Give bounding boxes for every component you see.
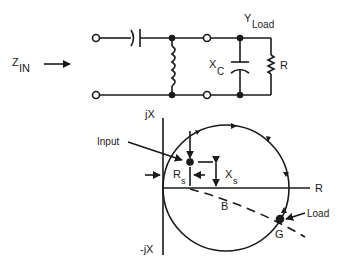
xs-label: X [225, 168, 233, 180]
load-terminal-top [204, 35, 211, 42]
yload-label: Y [244, 12, 252, 24]
rs-label: R [173, 168, 181, 180]
load-point [277, 216, 284, 223]
b-label: B [221, 200, 228, 212]
r-axis-label: R [315, 182, 323, 194]
jx-label: jX [144, 108, 155, 120]
zin-label: Z [12, 56, 19, 68]
matching-network-diagram: Z IN Y Load X C R jX -jX R Input R s X s… [0, 0, 340, 266]
neg-jx-label: -jX [140, 243, 154, 255]
load-terminal-bottom [204, 92, 211, 99]
xc-label: X [209, 58, 217, 70]
series-capacitor-icon [131, 30, 134, 46]
input-terminal-top [93, 35, 100, 42]
input-point [187, 159, 193, 165]
r-label: R [280, 59, 288, 71]
shunt-inductor-icon [172, 46, 175, 86]
input-terminal-bottom [93, 92, 100, 99]
g-label: G [275, 228, 284, 240]
xc-sub: C [217, 66, 224, 77]
rs-sub: s [181, 176, 186, 186]
yload-sub: Load [252, 19, 274, 30]
circuit-schematic [93, 29, 275, 99]
input-label: Input [97, 136, 119, 147]
load-resistor-icon [268, 55, 274, 74]
xs-sub: s [233, 176, 238, 186]
load-label: Load [307, 208, 329, 219]
zin-sub: IN [19, 62, 30, 74]
